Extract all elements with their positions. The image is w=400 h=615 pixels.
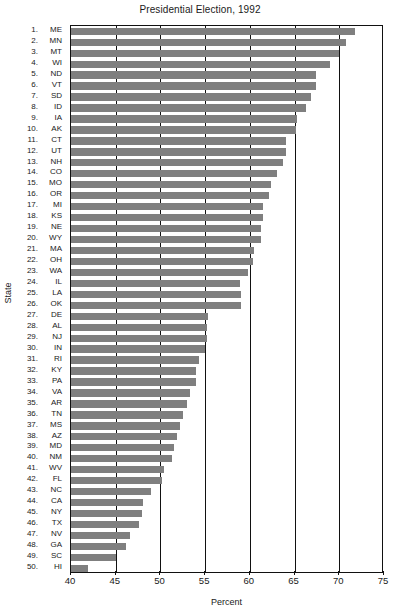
bar-MD bbox=[71, 444, 174, 451]
y-tick-MS: 37.MS bbox=[0, 420, 66, 431]
y-tick-NH: 13.NH bbox=[0, 157, 66, 168]
y-tick-TN: 36.TN bbox=[0, 409, 66, 420]
state-abbr: KY bbox=[51, 365, 62, 376]
rank-number: 16. bbox=[22, 189, 38, 200]
rank-number: 22. bbox=[22, 255, 38, 266]
state-abbr: WV bbox=[49, 463, 62, 474]
rank-number: 36. bbox=[22, 409, 38, 420]
state-abbr: MN bbox=[50, 36, 62, 47]
bar-MN bbox=[71, 39, 346, 46]
state-abbr: ND bbox=[50, 69, 62, 80]
y-tick-NC: 43.NC bbox=[0, 485, 66, 496]
state-abbr: IA bbox=[54, 113, 62, 124]
bar-DE bbox=[71, 313, 208, 320]
bar-ME bbox=[71, 28, 355, 35]
rank-number: 35. bbox=[22, 398, 38, 409]
rank-number: 47. bbox=[22, 529, 38, 540]
y-tick-IA: 9.IA bbox=[0, 113, 66, 124]
y-tick-KS: 18.KS bbox=[0, 211, 66, 222]
bar-RI bbox=[71, 356, 199, 363]
rank-number: 23. bbox=[22, 266, 38, 277]
bar-NJ bbox=[71, 335, 207, 342]
bar-MO bbox=[71, 181, 271, 188]
bar-series bbox=[71, 26, 382, 572]
state-abbr: OR bbox=[50, 189, 62, 200]
rank-number: 27. bbox=[22, 310, 38, 321]
state-abbr: KS bbox=[51, 211, 62, 222]
state-abbr: IN bbox=[54, 343, 62, 354]
y-tick-MI: 17.MI bbox=[0, 200, 66, 211]
state-abbr: AZ bbox=[52, 431, 62, 442]
rank-number: 9. bbox=[22, 113, 38, 124]
rank-number: 29. bbox=[22, 332, 38, 343]
bar-NC bbox=[71, 488, 151, 495]
bar-ID bbox=[71, 104, 306, 111]
rank-number: 41. bbox=[22, 463, 38, 474]
rank-number: 14. bbox=[22, 167, 38, 178]
y-tick-NM: 40.NM bbox=[0, 452, 66, 463]
y-tick-AR: 35.AR bbox=[0, 398, 66, 409]
state-abbr: GA bbox=[50, 540, 62, 551]
state-abbr: WA bbox=[49, 266, 62, 277]
rank-number: 20. bbox=[22, 233, 38, 244]
bar-IL bbox=[71, 280, 240, 287]
y-tick-GA: 48.GA bbox=[0, 540, 66, 551]
bar-OK bbox=[71, 302, 241, 309]
rank-number: 38. bbox=[22, 431, 38, 442]
bar-WY bbox=[71, 236, 261, 243]
bar-IN bbox=[71, 345, 205, 352]
state-abbr: PA bbox=[52, 376, 62, 387]
y-tick-IL: 24.IL bbox=[0, 277, 66, 288]
state-abbr: CT bbox=[51, 135, 62, 146]
rank-number: 19. bbox=[22, 222, 38, 233]
rank-number: 15. bbox=[22, 178, 38, 189]
state-abbr: CA bbox=[51, 496, 62, 507]
y-tick-MD: 39.MD bbox=[0, 441, 66, 452]
x-tick-50: 50 bbox=[154, 575, 165, 586]
y-tick-PA: 33.PA bbox=[0, 376, 66, 387]
rank-number: 24. bbox=[22, 277, 38, 288]
rank-number: 45. bbox=[22, 507, 38, 518]
state-abbr: LA bbox=[52, 288, 62, 299]
bar-CO bbox=[71, 170, 277, 177]
rank-number: 11. bbox=[22, 135, 38, 146]
rank-number: 6. bbox=[22, 80, 38, 91]
state-abbr: NY bbox=[51, 507, 62, 518]
state-abbr: FL bbox=[53, 474, 62, 485]
state-abbr: NH bbox=[50, 157, 62, 168]
bar-AR bbox=[71, 400, 187, 407]
bar-MS bbox=[71, 422, 180, 429]
bar-AL bbox=[71, 324, 207, 331]
bar-NY bbox=[71, 510, 142, 517]
state-abbr: MI bbox=[53, 200, 62, 211]
rank-number: 32. bbox=[22, 365, 38, 376]
x-tick-75: 75 bbox=[378, 575, 389, 586]
rank-number: 5. bbox=[22, 69, 38, 80]
y-tick-AK: 10.AK bbox=[0, 124, 66, 135]
rank-number: 46. bbox=[22, 518, 38, 529]
state-abbr: ME bbox=[50, 25, 62, 36]
bar-MI bbox=[71, 203, 263, 210]
rank-number: 34. bbox=[22, 387, 38, 398]
y-tick-NE: 19.NE bbox=[0, 222, 66, 233]
x-tick-70: 70 bbox=[333, 575, 344, 586]
rank-number: 13. bbox=[22, 157, 38, 168]
rank-number: 18. bbox=[22, 211, 38, 222]
plot-area bbox=[70, 25, 383, 573]
x-tick-40: 40 bbox=[65, 575, 76, 586]
y-tick-NV: 47.NV bbox=[0, 529, 66, 540]
state-abbr: MA bbox=[50, 244, 62, 255]
bar-WI bbox=[71, 61, 330, 68]
rank-number: 39. bbox=[22, 441, 38, 452]
state-abbr: UT bbox=[51, 146, 62, 157]
y-tick-FL: 42.FL bbox=[0, 474, 66, 485]
bar-TX bbox=[71, 521, 139, 528]
rank-number: 50. bbox=[22, 562, 38, 573]
x-tick-65: 65 bbox=[288, 575, 299, 586]
state-abbr: AL bbox=[52, 321, 62, 332]
y-tick-DE: 27.DE bbox=[0, 310, 66, 321]
state-abbr: MD bbox=[50, 441, 62, 452]
bar-AK bbox=[71, 126, 296, 133]
y-tick-MO: 15.MO bbox=[0, 178, 66, 189]
state-abbr: MO bbox=[49, 178, 62, 189]
